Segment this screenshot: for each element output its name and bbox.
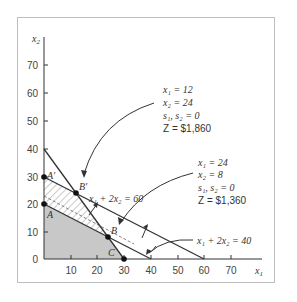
- point-C: [121, 256, 127, 262]
- svg-text:30: 30: [27, 172, 39, 183]
- annotation-B-prime: x₁ = 12 x₂ = 24 s₁, s₂ = 0 Z = $1,860: [162, 84, 212, 134]
- svg-text:40: 40: [145, 265, 157, 276]
- svg-text:60: 60: [198, 265, 210, 276]
- label-A: A: [46, 209, 54, 220]
- label-A-prime: A′: [46, 170, 56, 181]
- svg-text:0: 0: [32, 254, 38, 265]
- svg-text:s₁, s₂ = 0: s₁, s₂ = 0: [198, 182, 234, 193]
- svg-text:50: 50: [27, 116, 39, 127]
- point-A-prime: [41, 174, 47, 180]
- y-axis-label: x2: [31, 33, 40, 46]
- svg-text:x₁ = 24: x₁ = 24: [197, 157, 228, 168]
- label-eq40: x₁ + 2x₂ = 40: [196, 235, 251, 246]
- label-eq60: x₁ + 2x₂ = 60: [88, 193, 143, 204]
- svg-text:s₁, s₂ = 0: s₁, s₂ = 0: [163, 110, 199, 121]
- point-A: [41, 201, 47, 207]
- svg-text:20: 20: [91, 265, 103, 276]
- x-tick-labels: 10 20 30 40 50 60 70: [65, 265, 237, 276]
- y-tick-labels: 0 10 20 30 40 50 60 70: [27, 60, 39, 265]
- svg-text:40: 40: [27, 144, 39, 155]
- svg-text:10: 10: [27, 227, 39, 238]
- label-C: C: [108, 247, 115, 258]
- svg-text:60: 60: [27, 88, 39, 99]
- point-B: [105, 234, 111, 240]
- svg-text:x₁ = 12: x₁ = 12: [162, 84, 193, 95]
- svg-text:30: 30: [118, 265, 130, 276]
- label-B: B: [111, 225, 117, 236]
- svg-text:70: 70: [225, 265, 237, 276]
- lp-chart: 0 10 20 30 40 50 60 70 10 20 30 40 50 60…: [0, 0, 297, 302]
- annotation-B: x₁ = 24 x₂ = 8 s₁, s₂ = 0 Z = $1,360: [197, 157, 247, 206]
- svg-text:20: 20: [27, 199, 39, 210]
- svg-text:Z = $1,360: Z = $1,360: [198, 195, 247, 206]
- svg-text:x₂ = 24: x₂ = 24: [162, 97, 193, 108]
- x-axis-label: x1: [254, 265, 263, 278]
- point-B-prime: [73, 190, 79, 196]
- svg-text:10: 10: [65, 265, 77, 276]
- svg-text:70: 70: [27, 60, 39, 71]
- svg-text:x₂ = 8: x₂ = 8: [197, 169, 223, 180]
- svg-text:Z = $1,860: Z = $1,860: [163, 123, 212, 134]
- label-B-prime: B′: [79, 181, 88, 192]
- svg-text:50: 50: [172, 265, 184, 276]
